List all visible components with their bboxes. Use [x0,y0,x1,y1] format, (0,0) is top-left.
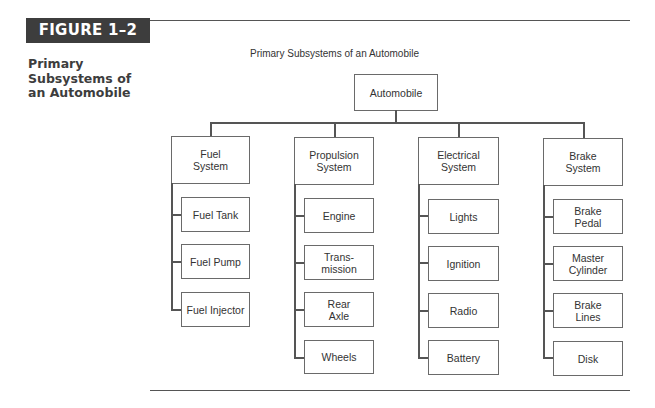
node-transmission: Trans- mission [304,245,374,280]
node-disk: Disk [553,341,623,376]
figure-caption: Primary Subsystems of an Automobile [28,57,148,101]
node-lights: Lights [428,199,499,234]
connector-branch [543,216,553,218]
node-master-cylinder: Master Cylinder [553,246,623,281]
connector-branch [418,215,428,217]
node-fuel-tank: Fuel Tank [181,197,250,232]
connector-drop-brake [583,122,585,138]
connector-propulsion-spine [294,184,296,358]
figure-label: FIGURE 1–2 [26,18,150,43]
connector-drop-electrical [458,122,460,137]
connector-branch [543,263,553,265]
node-fuel-injector: Fuel Injector [181,292,250,327]
node-ignition: Ignition [428,246,499,281]
connector-branch [171,309,181,311]
node-automobile: Automobile [354,74,438,111]
connector-branch [543,357,553,359]
node-wheels: Wheels [304,340,374,374]
connector-branch [171,214,181,216]
connector-branch [543,310,553,312]
connector-branch [418,262,428,264]
connector-bus [210,122,584,124]
node-brake-pedal: Brake Pedal [553,199,623,234]
node-propulsion-system: Propulsion System [294,137,374,185]
node-radio: Radio [428,293,499,328]
bottom-rule [150,390,630,391]
connector-branch [294,357,304,359]
node-brake-lines: Brake Lines [553,293,623,328]
node-fuel-pump: Fuel Pump [181,244,250,279]
node-electrical-system: Electrical System [418,137,499,185]
node-engine: Engine [304,198,374,233]
connector-drop-propulsion [334,122,336,137]
connector-electrical-spine [418,184,420,358]
connector-fuel-spine [171,183,173,310]
connector-branch [294,215,304,217]
node-fuel-system: Fuel System [171,136,250,184]
connector-branch [294,309,304,311]
connector-drop-fuel [210,122,212,137]
connector-branch [418,357,428,359]
connector-branch [418,310,428,312]
top-rule [150,20,630,21]
connector-branch [294,262,304,264]
node-battery: Battery [428,340,499,375]
diagram-title: Primary Subsystems of an Automobile [250,48,655,59]
connector-branch [171,261,181,263]
connector-brake-spine [543,185,545,358]
node-rear-axle: Rear Axle [304,292,374,327]
node-brake-system: Brake System [543,138,623,186]
